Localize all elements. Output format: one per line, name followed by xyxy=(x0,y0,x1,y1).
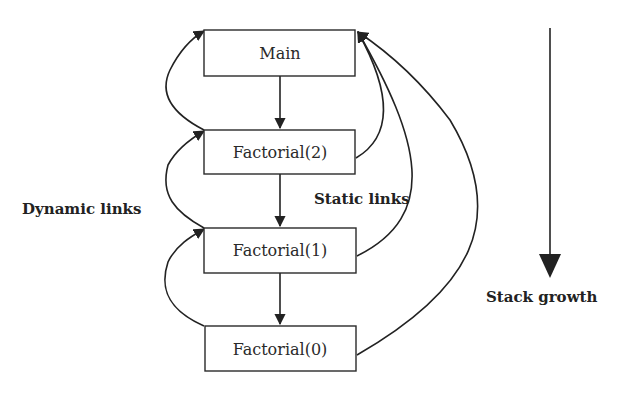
dynamic-link-f2-main xyxy=(166,31,204,130)
static-link-f1-main xyxy=(357,32,412,256)
dynamic-link-f0-f1 xyxy=(165,229,204,326)
dynamic-link-f1-f2 xyxy=(166,131,204,228)
activation-record-diagram: Main Factorial(2) Factorial(1) Factorial… xyxy=(0,0,623,395)
stack-growth-label: Stack growth xyxy=(486,288,597,306)
frame-label: Factorial(2) xyxy=(233,143,328,162)
frame-label: Factorial(0) xyxy=(233,340,328,359)
stack-growth-arrow xyxy=(539,28,561,278)
frame-label: Main xyxy=(259,44,300,63)
frame-factorial-0: Factorial(0) xyxy=(205,326,356,371)
frame-main: Main xyxy=(204,30,355,76)
dynamic-links-label: Dynamic links xyxy=(22,200,141,218)
static-links-label: Static links xyxy=(314,190,410,208)
frame-factorial-1: Factorial(1) xyxy=(204,228,356,273)
static-link-f2-main xyxy=(356,32,384,158)
arrow-down-icon xyxy=(539,254,561,278)
frame-label: Factorial(1) xyxy=(233,241,328,260)
dynamic-links xyxy=(165,31,204,326)
frame-factorial-2: Factorial(2) xyxy=(204,130,355,174)
